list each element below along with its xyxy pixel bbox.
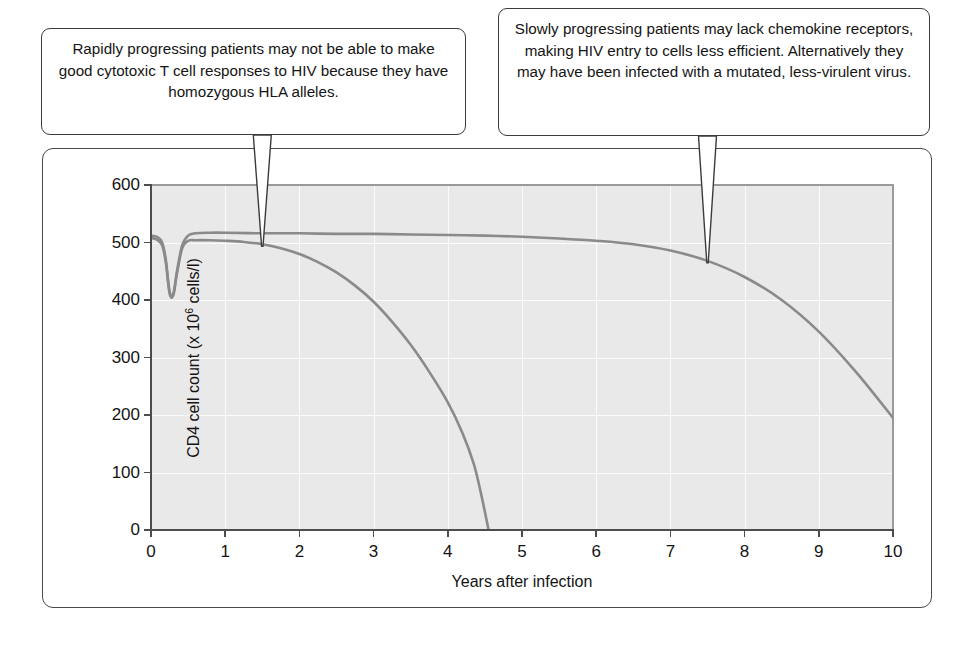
y-tick-label: 500: [112, 233, 140, 253]
y-tick-label: 600: [112, 175, 140, 195]
y-tick-mark: [144, 299, 151, 301]
x-tick-mark: [447, 530, 449, 537]
curve-rapid-progressors: [151, 238, 489, 530]
y-tick-label: 100: [112, 463, 140, 483]
callout-rapid-text: Rapidly progressing patients may not be …: [54, 38, 453, 103]
x-tick-label: 8: [740, 542, 749, 562]
x-tick-label: 9: [814, 542, 823, 562]
callout-slow-progressors: Slowly progressing patients may lack che…: [498, 8, 930, 136]
x-tick-label: 2: [295, 542, 304, 562]
x-tick-mark: [818, 530, 820, 537]
x-tick-mark: [670, 530, 672, 537]
x-tick-label: 5: [517, 542, 526, 562]
x-tick-mark: [744, 530, 746, 537]
x-tick-label: 0: [146, 542, 155, 562]
y-tick-mark: [144, 414, 151, 416]
callout-rapid-progressors: Rapidly progressing patients may not be …: [41, 28, 466, 135]
x-tick-mark: [373, 530, 375, 537]
y-tick-label: 0: [131, 520, 140, 540]
x-tick-label: 4: [443, 542, 452, 562]
callout-slow-text: Slowly progressing patients may lack che…: [511, 18, 917, 83]
x-tick-mark: [595, 530, 597, 537]
y-tick-mark: [144, 357, 151, 359]
x-tick-label: 10: [884, 542, 903, 562]
x-axis-label: Years after infection: [151, 573, 893, 591]
x-tick-label: 1: [220, 542, 229, 562]
x-tick-label: 3: [369, 542, 378, 562]
y-tick-label: 400: [112, 290, 140, 310]
y-tick-mark: [144, 242, 151, 244]
cd4-decline-chart: 0100200300400500600 012345678910 CD4 cel…: [151, 185, 893, 530]
x-tick-label: 7: [666, 542, 675, 562]
x-tick-mark: [892, 530, 894, 537]
y-tick-mark: [144, 184, 151, 186]
y-tick-label: 200: [112, 405, 140, 425]
curve-slow-progressors: [151, 233, 893, 418]
y-tick-label: 300: [112, 348, 140, 368]
x-tick-mark: [299, 530, 301, 537]
x-tick-mark: [150, 530, 152, 537]
figure-canvas: Rapidly progressing patients may not be …: [0, 0, 959, 647]
y-tick-mark: [144, 472, 151, 474]
x-tick-mark: [224, 530, 226, 537]
x-tick-mark: [521, 530, 523, 537]
x-tick-label: 6: [591, 542, 600, 562]
data-curves: [151, 185, 893, 530]
